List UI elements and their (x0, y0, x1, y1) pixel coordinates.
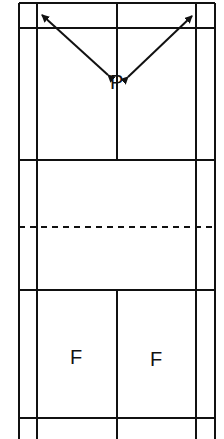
player-p-label: P (110, 72, 123, 92)
player-f-left-label: F (70, 347, 82, 367)
arrow-right-icon (128, 16, 192, 77)
player-f-right-label: F (150, 349, 162, 369)
badminton-court (0, 0, 224, 439)
arrow-left-icon (42, 15, 108, 75)
